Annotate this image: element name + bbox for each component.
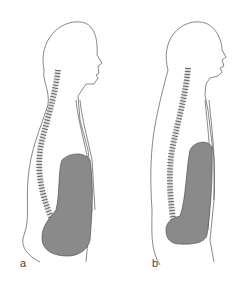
panel-b-label: b [152,257,158,269]
figure-canvas [0,0,249,289]
panel-a-label: a [20,257,26,269]
panel-a-abdominal-organ [42,154,92,256]
